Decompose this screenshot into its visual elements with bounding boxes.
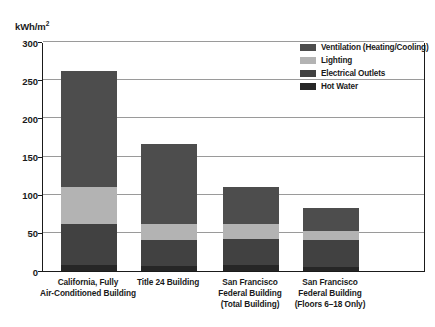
y-axis-title: kWh/m2 [15,21,49,32]
bar-segment [223,187,279,224]
y-axis-unit-exponent: 2 [46,20,50,27]
bar-segment [223,224,279,239]
legend-color-swatch [300,83,316,90]
bar-segment [141,224,197,241]
bar-segment [61,187,117,224]
bar-segment [223,265,279,271]
y-axis-tick-label: 0 [2,268,38,278]
legend-item-label: Hot Water [321,83,358,91]
bar-segment [303,240,359,267]
legend-item: Electrical Outlets [300,68,432,80]
y-axis-tick-labels: 050100150200250300 [0,43,38,272]
legend-item: Hot Water [300,81,432,93]
legend-item-label: Lighting [321,57,352,65]
energy-use-stacked-bar-chart: kWh/m2 050100150200250300 Ventilation (H… [0,0,435,327]
bar-segment [141,266,197,271]
y-axis-tick-label: 50 [2,229,38,239]
x-axis-category-label: San FranciscoFederal Building(Floors 6–1… [270,277,390,310]
chart-legend: Ventilation (Heating/Cooling)LightingEle… [300,42,432,94]
bar-segment [61,71,117,187]
legend-color-swatch [300,44,316,51]
legend-color-swatch [300,57,316,64]
bar-segment [223,239,279,265]
legend-item: Ventilation (Heating/Cooling) [300,42,432,54]
y-axis-unit-text: kWh/m [15,21,46,32]
x-axis-category-label-line: San Francisco [270,277,390,288]
legend-item: Lighting [300,55,432,67]
y-axis-tick-label: 300 [2,39,38,49]
y-axis-tick-label: 100 [2,191,38,201]
legend-item-label: Ventilation (Heating/Cooling) [321,44,429,52]
bar-segment [303,208,359,231]
legend-item-label: Electrical Outlets [321,70,385,78]
bar [141,144,197,271]
bar-segment [141,144,197,223]
legend-color-swatch [300,70,316,77]
bar [61,71,117,271]
x-axis-category-label-line: (Floors 6–18 Only) [270,299,390,310]
bar-segment [303,231,359,240]
y-axis-tick-label: 250 [2,77,38,87]
y-axis-tick-label: 200 [2,115,38,125]
bar-segment [61,224,117,265]
bar-segment [303,267,359,271]
x-axis-category-label-line: Federal Building [270,288,390,299]
bar [303,208,359,271]
bar [223,187,279,271]
x-axis-category-label-line: Air-Conditioned Building [28,288,148,299]
bar-segment [61,265,117,271]
bar-segment [141,240,197,266]
y-axis-tick-label: 150 [2,153,38,163]
